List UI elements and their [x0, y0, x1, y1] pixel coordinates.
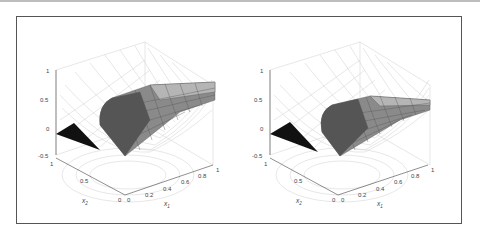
surface-plot-right: 1 0.5 0 -0.5 1 0.5 0 0 0.2 0.4 0.6 0.8 1… [240, 0, 480, 235]
y-tick: 1 [50, 161, 54, 167]
y-tick: 0.5 [80, 178, 89, 184]
z-tick: 0.5 [254, 97, 263, 103]
z-tick: -0.5 [252, 153, 263, 159]
x-tick: 0.4 [376, 186, 385, 192]
x-tick: 0.6 [181, 179, 190, 185]
x-tick: 0.2 [145, 192, 154, 198]
x-tick: 1 [216, 167, 220, 173]
surface-plot-left: 1 0.5 0 -0.5 1 0.5 0 0 0.2 0.4 0.6 0.8 1… [0, 0, 240, 235]
z-tick: 1 [46, 68, 50, 74]
z-tick: 1 [260, 68, 264, 74]
x-tick: 0.2 [358, 192, 367, 198]
y-tick: 0.5 [294, 178, 303, 184]
y-axis-label: x2 [81, 197, 88, 206]
z-tick: 0 [46, 126, 50, 132]
x-tick: 0.6 [394, 179, 403, 185]
x-axis-label: x1 [376, 200, 383, 209]
x-axis-label: x1 [163, 200, 170, 209]
z-tick: 0.5 [40, 97, 49, 103]
y-tick: 1 [264, 161, 268, 167]
y-axis-label: x2 [295, 197, 302, 206]
x-tick: 0.4 [163, 186, 172, 192]
z-tick: 0 [260, 126, 264, 132]
x-tick: 1 [431, 167, 435, 173]
z-tick: -0.5 [38, 153, 49, 159]
x-tick: 0.8 [198, 173, 207, 179]
x-tick: 0.8 [411, 173, 420, 179]
